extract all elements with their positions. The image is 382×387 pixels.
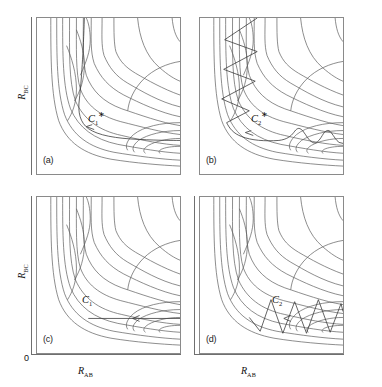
panel-c-contours — [37, 197, 180, 353]
trajectory-b — [222, 18, 343, 143]
x-axis-right-column — [194, 354, 344, 355]
y-axis-top-row — [31, 17, 32, 175]
x-axis-label-right-sub: AB — [247, 371, 256, 378]
panel-c-label: (c) — [43, 334, 53, 344]
y-axis-label-bottom: RBC — [16, 249, 29, 295]
panel-d — [199, 196, 344, 354]
y-axis-label-bottom-R: R — [16, 273, 27, 279]
panel-b-label: (b) — [206, 155, 216, 165]
panel-c — [36, 196, 181, 354]
x-axis-label-left-sub: AB — [84, 371, 93, 378]
panel-a — [36, 17, 181, 175]
x-axis-left-column — [31, 354, 181, 355]
trajectory-b-arrow — [245, 131, 253, 136]
x-axis-label-right: RAB — [241, 365, 256, 378]
panel-a-contours — [37, 18, 180, 174]
x-axis-label-left: RAB — [78, 365, 93, 378]
panel-b-critical-point: C2∗ — [251, 110, 268, 126]
panel-b-contours — [200, 18, 343, 174]
panel-d-contours — [200, 197, 343, 353]
panel-a-critical-point: C1∗ — [88, 110, 105, 126]
panel-d-critical-point: C2 — [272, 294, 282, 307]
y-axis-label-top-sub: BC — [22, 85, 29, 93]
panel-b — [199, 17, 344, 175]
panel-c-critical-point: C1 — [82, 294, 92, 307]
y-axis-label-top: RBC — [16, 70, 29, 116]
y-axis-bottom-row — [31, 196, 32, 354]
figure-root: (a) C1∗ — [0, 0, 382, 387]
panel-a-label: (a) — [43, 155, 53, 165]
origin-label: 0 — [24, 353, 29, 363]
y-axis-bottom-right — [194, 196, 195, 354]
y-axis-label-bottom-sub: BC — [22, 264, 29, 272]
panel-d-label: (d) — [206, 334, 216, 344]
y-axis-label-top-R: R — [16, 94, 27, 100]
